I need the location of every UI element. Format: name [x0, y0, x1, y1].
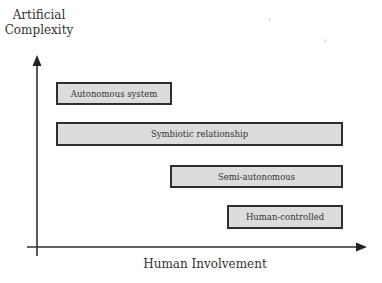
box-label: Symbiotic relationship [151, 129, 248, 139]
x-axis-arrow-icon [356, 243, 367, 252]
box-semi-autonomous: Semi-autonomous [170, 165, 343, 188]
box-label: Autonomous system [71, 89, 158, 99]
x-axis [27, 243, 367, 252]
scan-speck [324, 39, 327, 42]
x-axis-label: Human Involvement [120, 257, 290, 271]
scan-speck [268, 18, 271, 21]
box-label: Human-controlled [246, 212, 324, 222]
box-human-controlled: Human-controlled [227, 205, 343, 229]
box-symbiotic-relationship: Symbiotic relationship [56, 122, 343, 146]
y-axis [33, 55, 42, 256]
box-label: Semi-autonomous [218, 172, 295, 182]
box-autonomous-system: Autonomous system [56, 82, 172, 105]
y-axis-arrow-icon [33, 55, 42, 66]
